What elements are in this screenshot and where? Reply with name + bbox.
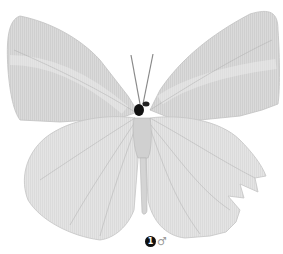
abdomen — [140, 158, 147, 214]
specimen-label: 1 ♂ — [145, 236, 167, 247]
left-hindwing — [24, 117, 138, 240]
thorax — [133, 118, 151, 158]
male-symbol-icon: ♂ — [157, 236, 167, 247]
specimen-number-badge: 1 — [145, 236, 156, 247]
head — [134, 104, 144, 116]
right-antenna — [143, 54, 153, 104]
butterfly-specimen-image — [0, 0, 283, 254]
left-antenna — [131, 55, 140, 104]
right-hindwing — [146, 117, 266, 238]
